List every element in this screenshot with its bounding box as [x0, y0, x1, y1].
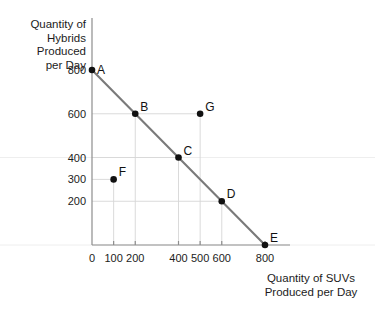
point-label-a: A	[97, 64, 105, 76]
data-point-b	[132, 110, 139, 117]
y-axis-title-line-1: Quantity of	[2, 18, 86, 32]
point-label-b: B	[140, 101, 148, 113]
data-point-f	[110, 176, 117, 183]
point-label-g: G	[205, 101, 214, 113]
y-axis-title-line-3: Produced	[2, 45, 86, 59]
x-axis-title-line-1: Quantity of SUVs	[252, 272, 370, 286]
x-tick-label-600: 600	[213, 252, 231, 264]
data-point-a	[89, 67, 96, 74]
point-label-f: F	[119, 166, 126, 178]
y-tick-label-300: 300	[50, 173, 86, 185]
data-point-g	[197, 110, 204, 117]
data-point-c	[175, 154, 182, 161]
point-label-c: C	[184, 145, 193, 157]
y-axis-title-line-4: per Day	[2, 59, 86, 73]
y-axis-title: Quantity ofHybridsProducedper Day	[2, 18, 86, 72]
y-tick-label-200: 200	[50, 195, 86, 207]
x-tick-label-200: 200	[126, 252, 144, 264]
axes	[92, 18, 290, 245]
x-tick-label-400: 400	[169, 252, 187, 264]
x-axis-title-line-2: Produced per Day	[252, 286, 370, 300]
y-tick-label-600: 600	[50, 108, 86, 120]
x-tick-label-0: 0	[89, 252, 95, 264]
x-axis-title: Quantity of SUVsProduced per Day	[252, 272, 370, 299]
data-point-d	[218, 198, 225, 205]
ppf-chart: 0100200400500600800 200300400600800 ABCD…	[0, 0, 375, 315]
x-tick-label-500: 500	[191, 252, 209, 264]
point-label-d: D	[227, 188, 236, 200]
x-tick-label-100: 100	[104, 252, 122, 264]
point-label-e: E	[270, 232, 278, 244]
y-tick-label-400: 400	[50, 152, 86, 164]
y-axis-title-line-2: Hybrids	[2, 32, 86, 46]
x-tick-label-800: 800	[256, 252, 274, 264]
data-point-e	[262, 242, 269, 249]
